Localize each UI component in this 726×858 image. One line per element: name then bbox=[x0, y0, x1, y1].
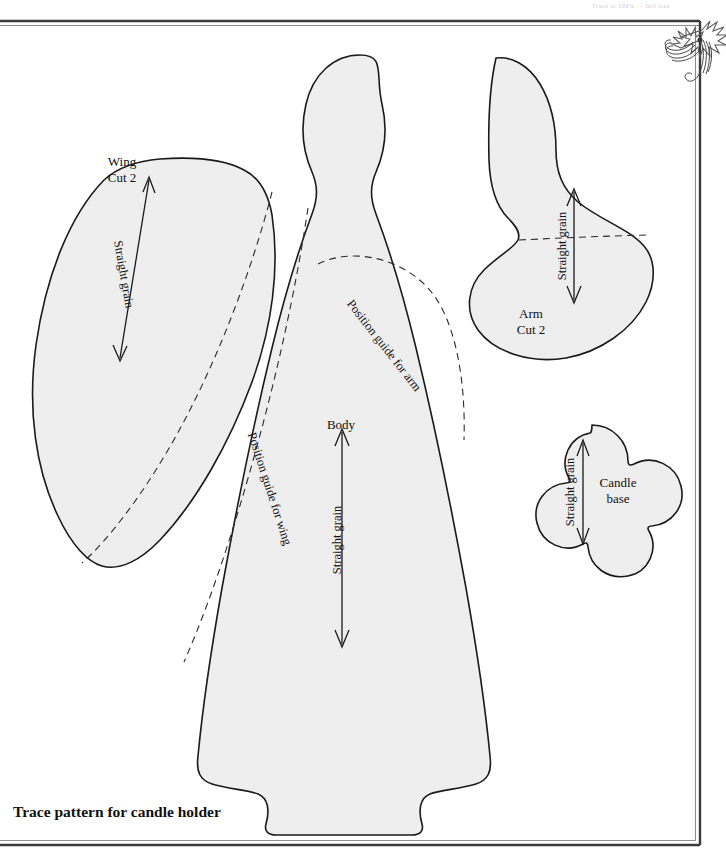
candle-base-label-line2: base bbox=[606, 491, 629, 506]
candle-base-grain-label: Straight grain bbox=[563, 457, 577, 526]
body-grain-label: Straight grain bbox=[330, 505, 344, 574]
arm-label-cut: Cut 2 bbox=[517, 322, 546, 337]
page-caption: Trace pattern for candle holder bbox=[13, 803, 221, 820]
wing-label-cut: Cut 2 bbox=[108, 170, 137, 185]
pattern-piece-arm: Arm Cut 2 Straight grain bbox=[469, 58, 653, 360]
page-header-note: Trace at 100% — full size bbox=[592, 3, 670, 9]
pattern-sheet-canvas: Trace at 100% — full size bbox=[0, 0, 726, 858]
pattern-page: Trace at 100% — full size bbox=[0, 0, 726, 858]
ornament-center-knot bbox=[697, 37, 702, 42]
body-label-name: Body bbox=[327, 417, 356, 432]
arm-label-name: Arm bbox=[519, 306, 543, 321]
arm-grain-label: Straight grain bbox=[555, 211, 569, 280]
candle-base-label-line1: Candle bbox=[600, 475, 637, 490]
wing-label-name: Wing bbox=[108, 154, 137, 169]
arm-outline bbox=[469, 58, 653, 360]
pattern-piece-candle-base: Candle base Straight grain bbox=[536, 425, 682, 577]
